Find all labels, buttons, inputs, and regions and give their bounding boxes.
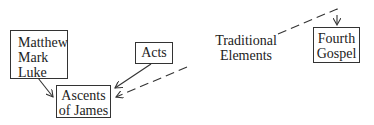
node-acts: Acts — [135, 42, 173, 64]
node-synoptics-line-3: Luke — [18, 65, 67, 80]
node-fourth-gospel-line-1: Fourth — [314, 31, 359, 46]
node-ascents-line-1: Ascents — [57, 88, 110, 103]
node-fourth-gospel-line-2: Gospel — [314, 46, 359, 61]
label-traditional-line-1: Traditional — [213, 33, 279, 48]
node-synoptics-line-2: Mark — [18, 50, 67, 65]
label-traditional-elements: Traditional Elements — [213, 33, 279, 63]
node-acts-line-1: Acts — [136, 45, 172, 60]
node-synoptics-line-1: Matthew — [18, 35, 67, 50]
edge-synoptics-to-ascents — [38, 78, 53, 97]
label-traditional-line-2: Elements — [213, 48, 279, 63]
node-ascents-line-2: of James — [57, 103, 110, 118]
node-ascents-of-james: Ascents of James — [56, 85, 111, 118]
node-fourth-gospel: Fourth Gospel — [313, 27, 360, 63]
node-synoptics: Matthew Mark Luke — [10, 30, 68, 79]
edge-traditional-to-ascents — [116, 67, 187, 97]
